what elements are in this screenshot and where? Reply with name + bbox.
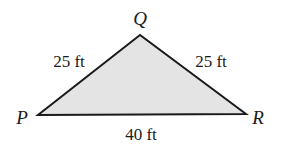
side-label-pq: 25 ft bbox=[53, 52, 85, 71]
diagram-svg: Q P R 25 ft 25 ft 40 ft bbox=[0, 0, 282, 147]
vertex-label-q: Q bbox=[133, 8, 147, 29]
vertex-label-p: P bbox=[15, 107, 28, 128]
triangle-diagram: Q P R 25 ft 25 ft 40 ft bbox=[0, 0, 282, 147]
vertex-label-r: R bbox=[251, 107, 264, 128]
side-label-pr: 40 ft bbox=[125, 125, 157, 144]
side-label-qr: 25 ft bbox=[195, 52, 227, 71]
triangle-pqr bbox=[38, 35, 246, 115]
